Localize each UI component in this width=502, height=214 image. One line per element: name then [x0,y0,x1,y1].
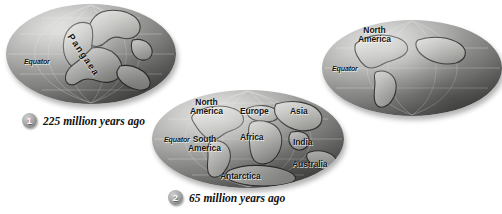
globe-pangaea-landmass [6,4,176,104]
caption-1: 1 225 million years ago [22,113,145,128]
caption-2-text: 65 million years ago [189,192,285,204]
globe-modern-continents-landmass [152,90,344,188]
caption-1-text: 225 million years ago [43,115,145,127]
caption-2-number-badge: 2 [168,190,183,205]
caption-1-number-badge: 1 [22,113,37,128]
caption-2: 2 65 million years ago [168,190,285,205]
globe-pangaea: Equator Pangaea [6,4,176,104]
globe-present-day: Equator North America [322,20,502,116]
globe-present-day-landmass [322,20,502,116]
globe-modern-continents: Equator North America Europe Asia Africa… [152,90,344,188]
